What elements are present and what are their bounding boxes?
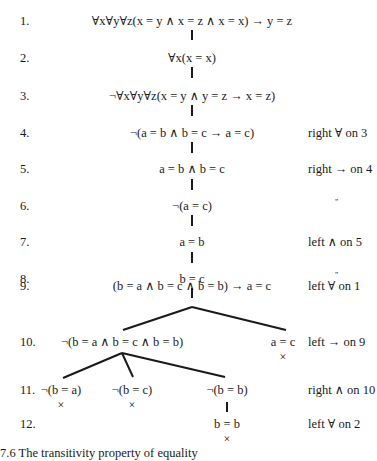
justification: left ∧ on 5 — [308, 235, 362, 249]
closed-branch-mark: × — [58, 399, 65, 411]
formula: ¬(a = b ∧ b = c → a = c) — [130, 126, 254, 140]
formula: (b = a ∧ b = c ∧ b = b) → a = c — [113, 279, 271, 293]
line-number: 2. — [20, 51, 29, 65]
line-number: 10. — [20, 335, 36, 349]
line-number: 1. — [20, 14, 29, 28]
justification: left ∀ on 2 — [308, 417, 360, 431]
justification: right → on 4 — [308, 162, 372, 176]
justification: left → on 9 — [308, 335, 365, 349]
formula-left-branch: ¬(b = a ∧ b = c ∧ b = b) — [61, 335, 183, 349]
line-number: 12. — [20, 417, 36, 431]
line-number: 5. — [20, 162, 29, 176]
formula-branch-1: ¬(b = a) — [41, 383, 81, 397]
justification: right ∧ on 10 — [308, 383, 375, 397]
line-number: 6. — [20, 199, 29, 213]
formula: ∀x(x = x) — [168, 51, 216, 65]
formula: ∀x∀y∀z(x = y ∧ x = z ∧ x = x) → y = z — [92, 14, 292, 28]
justification: left ∀ on 1 — [308, 279, 360, 293]
formula-branch-3: ¬(b = b) — [206, 383, 247, 397]
formula: ¬(a = c) — [172, 199, 212, 213]
figure-caption: 7.6 The transitivity property of equalit… — [0, 446, 198, 461]
closed-branch-mark: × — [224, 433, 231, 445]
line-number: 7. — [20, 235, 29, 249]
closed-branch-mark: × — [129, 399, 136, 411]
formula-right-branch: a = c — [271, 335, 295, 349]
justification: right ∀ on 3 — [308, 126, 367, 140]
formula-branch-2: ¬(b = c) — [112, 383, 152, 397]
formula: b = b — [214, 417, 240, 431]
line-number: 4. — [20, 126, 29, 140]
formula: a = b ∧ b = c — [159, 162, 225, 176]
formula: ¬∀x∀y∀z(x = y ∧ y = z → x = z) — [109, 89, 275, 103]
formula: a = b — [179, 235, 204, 249]
line-number: 11. — [20, 383, 35, 397]
closed-branch-mark: × — [280, 351, 287, 363]
line-number: 3. — [20, 89, 29, 103]
line-number: 9. — [20, 279, 29, 293]
ditto-mark: " — [335, 196, 338, 210]
